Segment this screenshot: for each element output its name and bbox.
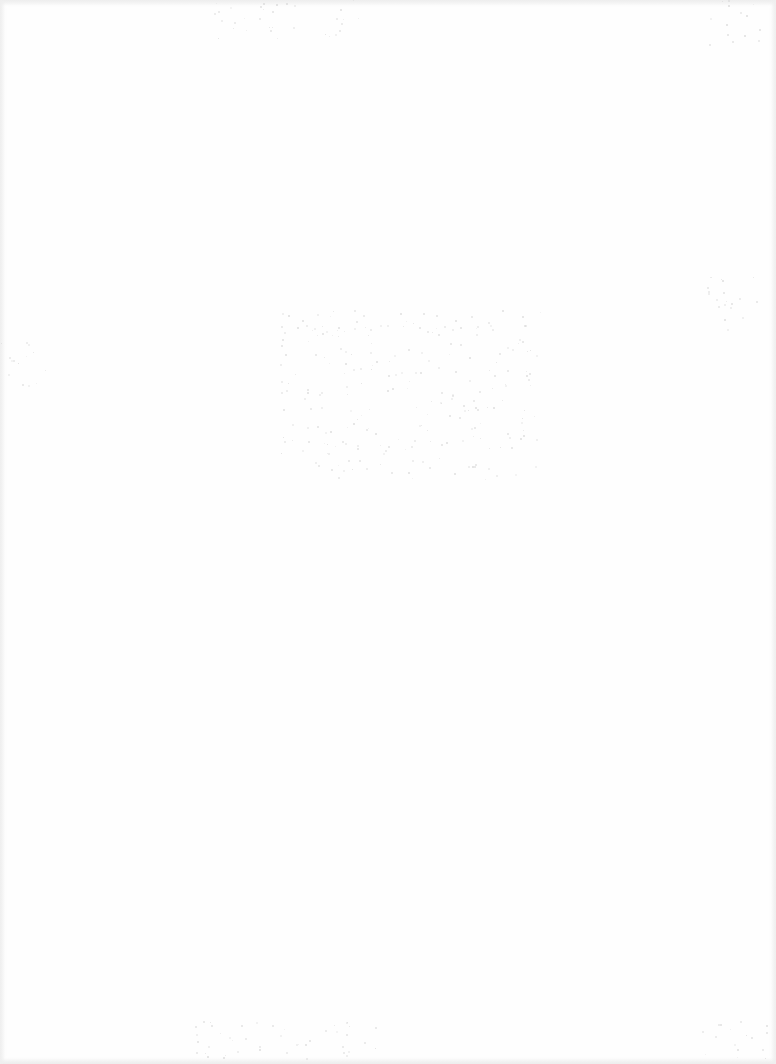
page-edge-top <box>0 0 776 6</box>
scan-noise-top-center <box>210 0 360 40</box>
scan-noise-top-right <box>705 0 760 45</box>
scan-noise-bottom-center <box>190 1020 390 1060</box>
scan-noise-bottom-right <box>700 1020 770 1060</box>
page-edge-left <box>0 0 5 1064</box>
scan-noise-center-diagonal <box>280 310 540 480</box>
scan-noise-left-mid <box>0 340 50 390</box>
blank-document-page <box>0 0 776 1064</box>
page-edge-right <box>771 0 776 1064</box>
scan-noise-right-mid <box>700 270 760 330</box>
